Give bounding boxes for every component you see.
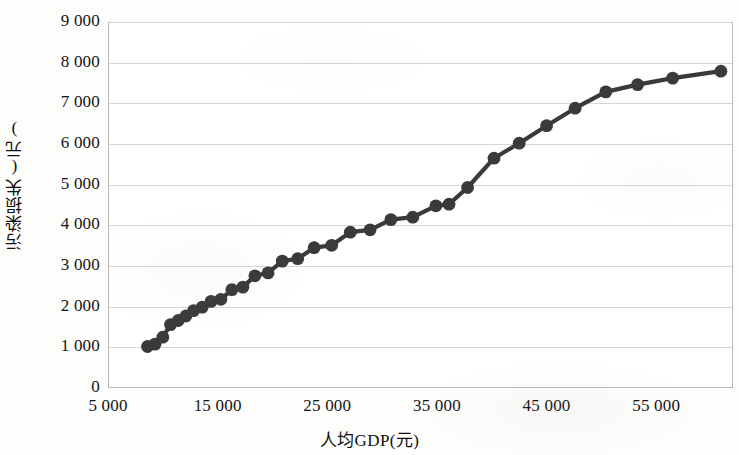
y-axis-tick-label: 8 000: [0, 52, 100, 72]
y-axis-tick-label: 7 000: [0, 92, 100, 112]
y-axis-tick-label: 2 000: [0, 296, 100, 316]
x-axis-tick-label: 25 000: [303, 396, 351, 416]
x-axis-tick-label: 15 000: [194, 396, 242, 416]
x-axis-tick-label: 35 000: [413, 396, 461, 416]
y-axis-tick-label: 3 000: [0, 255, 100, 275]
gridline: [109, 103, 732, 104]
y-axis-tick-label: 6 000: [0, 133, 100, 153]
x-axis-title: 人均GDP(元): [0, 426, 739, 451]
x-axis-tick-label: 5 000: [88, 396, 127, 416]
plot-area: [108, 22, 733, 388]
gridline: [109, 185, 732, 186]
x-axis-tick-label: 45 000: [523, 396, 571, 416]
gridline: [109, 63, 732, 64]
y-axis-tick-label: 0: [0, 377, 100, 397]
y-axis-tick-label: 4 000: [0, 214, 100, 234]
y-axis-tick-label: 9 000: [0, 11, 100, 31]
pollution-loss-vs-gdp-chart: 污染损失(元) 01 0002 0003 0004 0005 0006 0007…: [0, 0, 739, 455]
x-axis-tick-label: 55 000: [632, 396, 680, 416]
gridline: [109, 266, 732, 267]
gridline: [109, 144, 732, 145]
gridline: [109, 307, 732, 308]
gridline: [109, 347, 732, 348]
y-axis-tick-label: 1 000: [0, 336, 100, 356]
y-axis-tick-label: 5 000: [0, 174, 100, 194]
gridline: [109, 225, 732, 226]
gridline: [109, 22, 732, 23]
